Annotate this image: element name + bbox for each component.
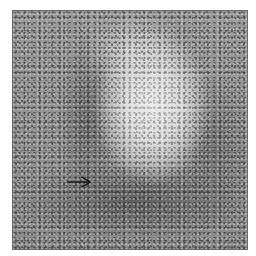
micrograph-image [12, 10, 248, 250]
arrow-annotation-icon [66, 176, 92, 188]
pale-central-region [13, 11, 247, 249]
